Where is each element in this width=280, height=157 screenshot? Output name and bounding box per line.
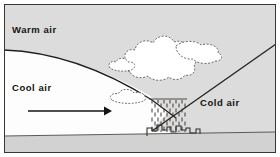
label-cold-air: Cold air — [200, 97, 240, 108]
diagram-canvas: Warm air Cool air Cold air — [0, 0, 280, 157]
label-cool-air: Cool air — [12, 82, 52, 93]
weather-front-diagram: Warm air Cool air Cold air — [0, 0, 280, 157]
label-warm-air: Warm air — [12, 24, 57, 35]
